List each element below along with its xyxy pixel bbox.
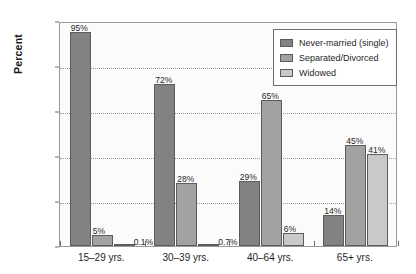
legend-label-never-married: Never-married (single): [299, 38, 389, 48]
x-axis-tick-mark: [229, 241, 230, 246]
bar-value-label: 72%: [155, 76, 172, 85]
x-axis-tick-mark: [314, 241, 315, 246]
legend-label-widowed: Widowed: [299, 68, 336, 78]
bar-value-label: 41%: [368, 145, 385, 154]
bar: [239, 181, 260, 246]
x-axis-category-label: 65+ yrs.: [337, 252, 373, 263]
legend-item[interactable]: Separated/Divorced: [280, 50, 389, 65]
plot-area: 95%5%0.1%72%28%0.7%29%65%6%14%45%41% Nev…: [59, 22, 397, 247]
bar: [198, 244, 219, 246]
bar: [345, 145, 366, 246]
bar: [176, 183, 197, 246]
bar: [323, 215, 344, 247]
legend-item[interactable]: Widowed: [280, 65, 389, 80]
bar-value-label: 14%: [324, 206, 341, 215]
legend-swatch-never-married: [280, 39, 293, 47]
bar: [283, 233, 304, 247]
bar-value-label: 5%: [93, 226, 105, 235]
bar: [154, 84, 175, 246]
bar-value-label: 28%: [177, 175, 194, 184]
bar: [114, 244, 135, 246]
legend-item[interactable]: Never-married (single): [280, 35, 389, 50]
x-axis-tick-mark: [145, 241, 146, 246]
gridline: [60, 113, 396, 114]
y-axis-title-label: Percent: [12, 22, 24, 86]
legend-label-separated-divorced: Separated/Divorced: [299, 53, 379, 63]
bar-value-label: 95%: [71, 24, 88, 33]
x-axis-category-label: 15–29 yrs.: [78, 252, 125, 263]
bar-value-label: 45%: [346, 136, 363, 145]
x-axis-category-label: 30–39 yrs.: [162, 252, 209, 263]
bar-value-label: 29%: [240, 172, 257, 181]
bar-value-label: 0.7%: [218, 238, 237, 247]
legend: Never-married (single) Separated/Divorce…: [273, 29, 397, 86]
bar: [70, 32, 91, 246]
bar-chart: Percent 020406080100 95%5%0.1%72%28%0.7%…: [0, 0, 416, 274]
bar-value-label: 65%: [262, 91, 279, 100]
x-axis-category-label: 40–64 yrs.: [247, 252, 294, 263]
x-axis-tick-mark: [398, 241, 399, 246]
bar: [367, 154, 388, 246]
x-axis-tick-mark: [60, 241, 61, 246]
legend-swatch-separated-divorced: [280, 54, 293, 62]
bar-value-label: 0.1%: [134, 238, 153, 247]
legend-swatch-widowed: [280, 69, 293, 77]
bar: [261, 100, 282, 246]
bar: [92, 235, 113, 246]
bar-value-label: 6%: [284, 224, 296, 233]
